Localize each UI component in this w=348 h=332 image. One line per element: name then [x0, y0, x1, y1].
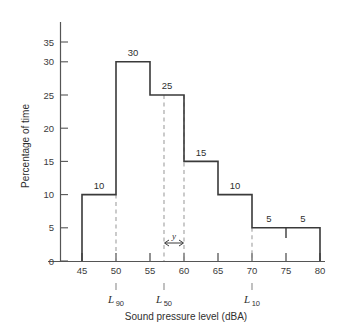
x-tick-label-50: 50	[111, 265, 122, 276]
x-axis-ticks	[82, 253, 320, 261]
histogram-outline	[82, 62, 320, 261]
y-interval-label: y	[171, 231, 176, 241]
percentile-label-L10: L10	[243, 293, 260, 308]
x-tick-label-80: 80	[315, 265, 326, 276]
x-tick-label-60: 60	[179, 265, 190, 276]
y-tick-label-15: 15	[43, 156, 54, 167]
percentile-label-L10-symbol: L	[243, 293, 250, 305]
y-tick-label-30: 30	[43, 56, 54, 67]
x-tick-label-65: 65	[213, 265, 224, 276]
y-tick-label-10: 10	[43, 189, 54, 200]
chart-canvas: 0 5 10 15 20 25 30 35 45 50 55 60 65 70 …	[0, 0, 348, 332]
y-tick-label-20: 20	[43, 123, 54, 134]
y-tick-label-25: 25	[43, 90, 54, 101]
bar-value-label-0: 10	[94, 180, 105, 191]
percentile-label-L50: L50	[155, 293, 172, 308]
bar-value-label-2: 25	[162, 80, 173, 91]
x-axis-title: Sound pressure level (dBA)	[125, 311, 247, 322]
y-tick-label-0: 0	[49, 256, 54, 267]
bar-value-label-4: 10	[230, 180, 241, 191]
x-tick-label-45: 45	[77, 265, 88, 276]
histogram-chart: 0 5 10 15 20 25 30 35 45 50 55 60 65 70 …	[0, 0, 348, 332]
y-axis-ticks	[61, 42, 69, 261]
x-tick-label-55: 55	[145, 265, 156, 276]
y-tick-label-35: 35	[43, 37, 54, 48]
percentile-label-L90: L90	[107, 293, 124, 308]
y-axis-title: Percentage of time	[20, 104, 31, 188]
bar-value-label-5: 5	[266, 213, 271, 224]
y-tick-label-5: 5	[49, 222, 54, 233]
percentile-label-L90-subscript: 90	[116, 299, 124, 308]
percentile-label-L10-subscript: 10	[252, 299, 260, 308]
bar-value-label-6: 5	[300, 213, 305, 224]
bar-value-label-3: 15	[196, 147, 207, 158]
x-tick-label-75: 75	[281, 265, 292, 276]
bar-value-label-1: 30	[128, 47, 139, 58]
percentile-label-L90-symbol: L	[107, 293, 114, 305]
x-tick-label-70: 70	[247, 265, 258, 276]
percentile-marker-stems	[116, 283, 252, 290]
percentile-label-L50-symbol: L	[155, 293, 162, 305]
percentile-label-L50-subscript: 50	[164, 299, 172, 308]
